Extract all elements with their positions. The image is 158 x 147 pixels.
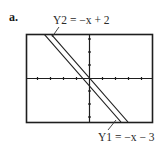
calculator-graph-screen bbox=[0, 0, 158, 147]
y1-leader-line bbox=[108, 120, 116, 130]
y2-leader-line bbox=[52, 27, 59, 37]
